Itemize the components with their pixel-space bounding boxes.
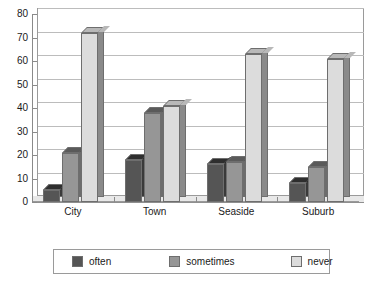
legend-label: often: [89, 256, 111, 267]
bar-face: [207, 164, 224, 202]
y-tick-mark: [32, 108, 37, 109]
legend-swatch-never: [291, 256, 302, 267]
bar-town-never: [163, 106, 180, 202]
y-tick-mark: [32, 85, 37, 86]
x-tick-label-suburb: Suburb: [277, 206, 359, 217]
y-tick-mark: [32, 61, 37, 62]
chart-legend: oftensometimesnever: [53, 249, 330, 274]
bar-face: [81, 33, 98, 202]
bar-face: [43, 190, 60, 202]
bar-face: [289, 183, 306, 202]
bar-face: [144, 113, 161, 202]
x-tick-label-seaside: Seaside: [196, 206, 278, 217]
bar-suburb-often: [289, 183, 306, 202]
bar-side: [180, 101, 186, 197]
bar-face: [226, 162, 243, 202]
y-tick-mark: [32, 179, 37, 180]
bar-suburb-sometimes: [308, 167, 325, 202]
x-tick-label-town: Town: [114, 206, 196, 217]
legend-item-sometimes[interactable]: sometimes: [169, 256, 234, 267]
bar-city-never: [81, 33, 98, 202]
bar-seaside-never: [245, 54, 262, 202]
bar-face: [327, 59, 344, 202]
x-tick-mark: [196, 197, 197, 202]
x-tick-mark: [114, 197, 115, 202]
y-tick-mark: [32, 38, 37, 39]
legend-swatch-sometimes: [169, 256, 180, 267]
y-tick-mark: [32, 132, 37, 133]
legend-label: never: [308, 256, 333, 267]
legend-item-often[interactable]: often: [72, 256, 111, 267]
bar-town-sometimes: [144, 113, 161, 202]
bar-chart: 01020304050607080 CityTownSeasideSuburb …: [0, 0, 376, 284]
legend-swatch-often: [72, 256, 83, 267]
bar-face: [245, 54, 262, 202]
bar-face: [125, 160, 142, 202]
bar-side: [262, 49, 268, 197]
y-tick-mark: [32, 155, 37, 156]
bar-face: [62, 153, 79, 202]
bar-top: [81, 27, 104, 33]
bar-face: [308, 167, 325, 202]
legend-label: sometimes: [186, 256, 234, 267]
x-tick-label-city: City: [32, 206, 114, 217]
y-tick-mark: [32, 202, 37, 203]
bar-city-often: [43, 190, 60, 202]
bar-town-often: [125, 160, 142, 202]
bar-face: [163, 106, 180, 202]
bar-side: [344, 54, 350, 197]
legend-item-never[interactable]: never: [291, 256, 333, 267]
bar-suburb-never: [327, 59, 344, 202]
x-tick-mark: [277, 197, 278, 202]
bar-side: [98, 28, 104, 197]
bar-top: [163, 100, 186, 106]
y-tick-mark: [32, 14, 37, 15]
bar-seaside-sometimes: [226, 162, 243, 202]
bar-city-sometimes: [62, 153, 79, 202]
bar-seaside-often: [207, 164, 224, 202]
